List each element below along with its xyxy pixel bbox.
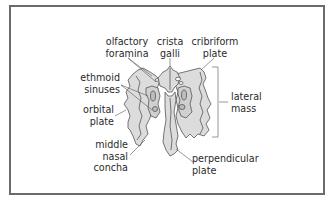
label-orbital-plate: orbitalplate [83, 104, 114, 127]
ethmoid-bone-illustration [124, 66, 211, 156]
leader-cribriform [201, 58, 214, 70]
label-olfactory-foramina: olfactoryforamina [105, 36, 148, 59]
sinus-cell [151, 91, 156, 101]
label-ethmoid-sinuses: ethmoidsinuses [80, 72, 120, 95]
label-cribriform-plate: cribriformplate [192, 36, 239, 59]
ethmoid-bone-diagram: olfactoryforamina cristagalli cribriform… [0, 0, 329, 204]
leader-perpendicular [176, 149, 193, 162]
foramen [176, 77, 181, 81]
foramen [155, 79, 159, 82]
label-middle-nasal-concha: middlenasalconcha [94, 139, 129, 173]
foramen [179, 82, 183, 85]
lateral-mass-bracket [212, 67, 218, 137]
leader-orbital [115, 110, 126, 116]
sinus-cell [153, 107, 158, 112]
sinus-cell [182, 90, 187, 100]
sinus-cell [179, 105, 185, 110]
label-lateral-mass: lateralmass [231, 91, 262, 114]
label-crista-galli: cristagalli [157, 36, 184, 59]
label-perpendicular-plate: perpendicularplate [192, 153, 259, 176]
